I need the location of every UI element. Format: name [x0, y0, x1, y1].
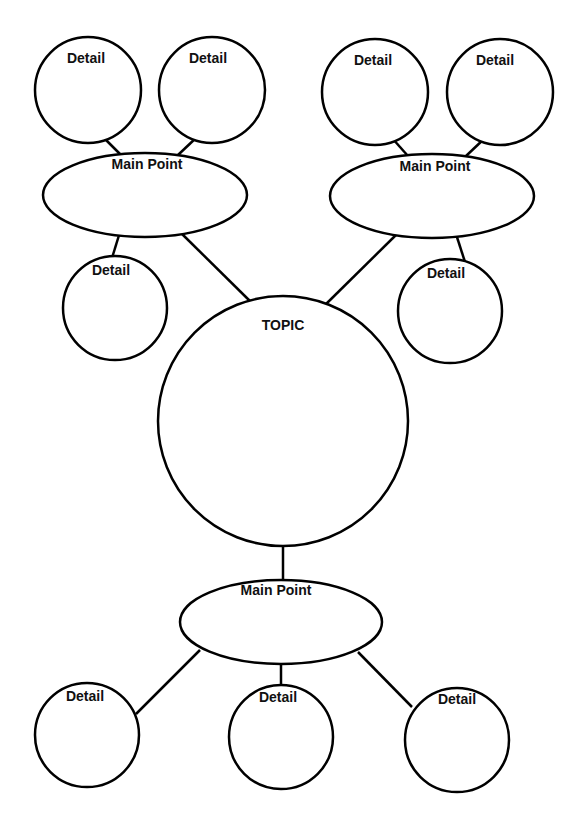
- main-point-group-2: Detail Detail Main Point Detail: [322, 39, 553, 363]
- main-point-group-3: Main Point Detail Detail Detail: [35, 580, 509, 792]
- main-point-label: Main Point: [241, 582, 312, 598]
- connector: [136, 650, 200, 714]
- detail-label: Detail: [476, 52, 514, 68]
- topic-label: TOPIC: [262, 317, 305, 333]
- bubble-map: Detail Detail Main Point Detail Detail D…: [0, 0, 574, 832]
- detail-label: Detail: [92, 262, 130, 278]
- detail-label: Detail: [66, 688, 104, 704]
- connector: [456, 234, 465, 262]
- detail-label: Detail: [354, 52, 392, 68]
- detail-label: Detail: [259, 689, 297, 705]
- main-point-label: Main Point: [112, 156, 183, 172]
- detail-label: Detail: [438, 691, 476, 707]
- connector: [322, 234, 397, 308]
- detail-label: Detail: [67, 50, 105, 66]
- topic-group: TOPIC: [158, 296, 408, 546]
- detail-label: Detail: [189, 50, 227, 66]
- detail-label: Detail: [427, 265, 465, 281]
- main-point-label: Main Point: [400, 158, 471, 174]
- connector: [358, 652, 412, 707]
- topic-bubble[interactable]: [158, 296, 408, 546]
- connector: [180, 232, 254, 305]
